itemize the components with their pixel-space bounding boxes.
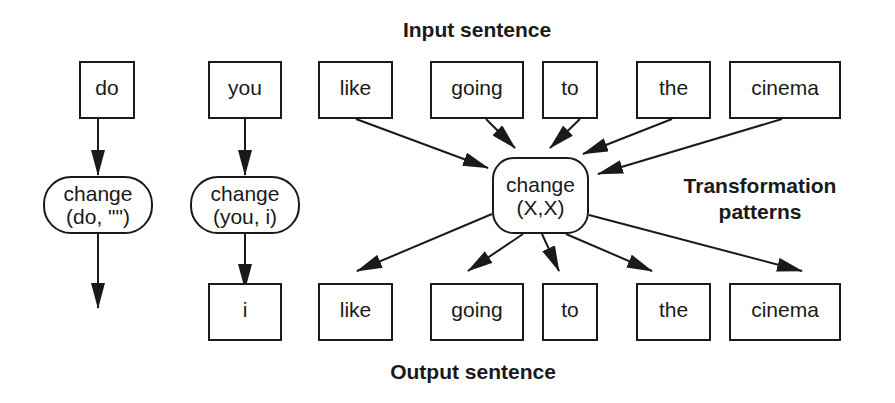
input-word-you: you <box>208 61 282 119</box>
input-sentence-title: Input sentence <box>367 18 587 42</box>
input-word-the: the <box>636 61 711 119</box>
edge-going-out <box>468 234 523 271</box>
pattern-change-do-empty: change (do, "") <box>43 176 153 234</box>
input-word-like: like <box>318 61 393 119</box>
edge-like-in <box>356 119 488 168</box>
edge-to-out <box>542 234 559 271</box>
output-word-i: i <box>208 283 282 341</box>
edge-cinema-in <box>598 119 782 174</box>
input-word-going: going <box>430 61 524 119</box>
transformation-patterns-title-line2: patterns <box>670 200 850 224</box>
pattern-label-line2: (you, i) <box>213 205 277 228</box>
pattern-change-you-i: change (you, i) <box>190 176 300 234</box>
output-word-cinema: cinema <box>729 283 841 341</box>
output-sentence-title: Output sentence <box>363 360 583 384</box>
edge-going-in <box>486 119 515 148</box>
edge-the-out <box>566 234 652 271</box>
transformation-patterns-title-line1: Transformation <box>670 174 850 198</box>
input-word-cinema: cinema <box>729 61 841 119</box>
edge-to-in <box>550 119 580 148</box>
edge-like-out <box>357 214 492 271</box>
pattern-label-line1: change <box>64 182 133 205</box>
edge-the-in <box>583 119 672 154</box>
output-word-to: to <box>542 283 598 341</box>
output-word-going: going <box>430 283 524 341</box>
pattern-label-line1: change <box>506 173 575 196</box>
pattern-label-line1: change <box>211 182 280 205</box>
pattern-label-line2: (X,X) <box>517 196 565 219</box>
pattern-label-line2: (do, "") <box>66 205 130 228</box>
pattern-change-x-x: change (X,X) <box>492 157 589 234</box>
input-word-do: do <box>79 61 135 119</box>
output-word-like: like <box>318 283 393 341</box>
input-word-to: to <box>542 61 598 119</box>
output-word-the: the <box>636 283 711 341</box>
